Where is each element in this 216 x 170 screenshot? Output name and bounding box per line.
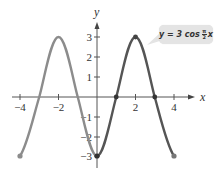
endpoint-marker [171, 153, 176, 158]
y-axis-label: y [93, 5, 100, 19]
maximum-marker [133, 35, 138, 40]
x-axis-label: x [199, 90, 206, 104]
x-tick-label: −4 [14, 101, 26, 113]
cosine-graph: −4 −2 2 4 3 2 1 −1 −2 −3 x y y = 3 cos [0, 0, 216, 170]
x-axis-arrow-icon [188, 95, 195, 100]
zero-marker [114, 95, 119, 100]
equation-callout: y = 3 cos π 2 x [159, 25, 213, 44]
y-axis-arrow-icon [95, 22, 100, 29]
y-tick-label: −3 [80, 150, 92, 162]
y-tick-label: 2 [87, 51, 93, 63]
y-tick-label: 1 [87, 71, 93, 83]
endpoint-marker [17, 153, 22, 158]
minimum-marker [94, 153, 99, 158]
equation-variable: x [208, 30, 213, 39]
equation-lhs: y = 3 cos [159, 30, 200, 39]
x-tick-label: −2 [53, 101, 65, 113]
x-tick-label: 4 [171, 101, 177, 113]
x-tick-label: 2 [133, 101, 139, 113]
equation-fraction: π 2 [202, 29, 207, 40]
y-tick-label: 3 [87, 31, 93, 43]
zero-marker [152, 95, 157, 100]
fraction-denominator: 2 [203, 35, 206, 40]
